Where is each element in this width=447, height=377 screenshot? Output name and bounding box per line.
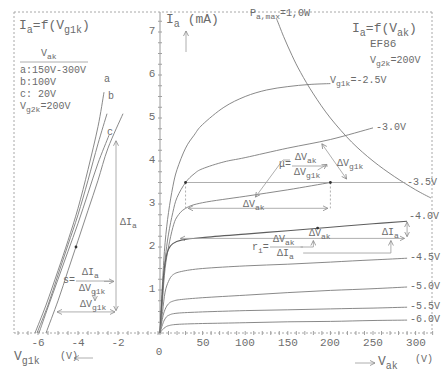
curve-6-0v: [160, 320, 407, 333]
ri-delta-ia-label: ΔIa: [382, 228, 399, 238]
y-tick-1: 1: [149, 284, 156, 295]
x-tick-150: 150: [278, 338, 298, 349]
main-vg2k: Vg2k=200V: [370, 56, 420, 66]
slope-formula-denominator: ΔVg1k: [79, 284, 105, 294]
tube-type: EF86: [370, 39, 396, 50]
left-dot-marker: [75, 246, 78, 249]
x-tick-minus6: -6: [31, 338, 44, 349]
x-tick-200: 200: [320, 338, 340, 349]
power-limit-label: Pa,max=1,0W: [250, 9, 310, 19]
x-tick-minus2: -2: [111, 338, 124, 349]
curve-label-minus5-5: -5.5V: [410, 302, 440, 312]
legend-item-b: b:100V: [20, 78, 56, 88]
x-tick-300: 300: [406, 338, 426, 349]
curve-a-300v: [35, 92, 104, 333]
main-x-axis-unit: (V): [415, 355, 433, 365]
curve-label-minus5-0: -5.0V: [410, 282, 440, 292]
curve-label-c: c: [107, 128, 113, 138]
ri-formula-numerator: ΔVak: [273, 235, 295, 245]
left-chart-title: Ia=f(Vg1k): [19, 19, 90, 32]
y-tick-4: 4: [149, 155, 156, 166]
ri-formula-lhs: ri=: [252, 243, 269, 253]
y-tick-5: 5: [149, 112, 156, 123]
main-dot-marker: [184, 181, 187, 184]
curve-label-minus3-0: -3.0V: [376, 123, 406, 133]
legend-header: Vak: [41, 49, 57, 59]
slope-formula-lhs: s=: [63, 276, 75, 286]
origin-label: 0: [156, 347, 163, 358]
y-tick-2: 2: [149, 241, 156, 252]
main-dot-marker: [329, 181, 332, 184]
x-tick-250: 250: [363, 338, 383, 349]
delta-vg1k-label: ΔVg1k: [80, 300, 106, 310]
x-tick-100: 100: [235, 338, 255, 349]
curve-5-5v: [160, 307, 407, 333]
x-tick-minus4: -4: [71, 338, 84, 349]
curve-label-minus4-0: -4.0V: [409, 212, 439, 222]
ri-delta-vak-label: ΔVak: [309, 229, 331, 239]
delta-ia-label: ΔIa: [120, 218, 137, 228]
mu-formula-numerator: ΔVak: [295, 153, 317, 163]
slope-formula-numerator: ΔIa: [82, 268, 99, 278]
x-tick-50: 50: [196, 338, 209, 349]
legend-vg2k: Vg2k=200V: [20, 102, 70, 112]
mu-delta-vak-label: ΔVak: [243, 200, 265, 210]
main-x-axis-label: Vak: [378, 355, 398, 368]
left-x-axis-unit: (V): [60, 352, 78, 362]
curve-label-b: b: [108, 92, 114, 102]
main-chart-title: Ia=f(Vak): [352, 22, 417, 35]
y-tick-3: 3: [149, 198, 156, 209]
curve-label-minus4-5: -4.5V: [410, 253, 440, 263]
mu-formula-denominator: ΔVg1k: [294, 168, 320, 178]
curve-label-minus2-5: Vg1k=-2.5V: [330, 76, 386, 86]
y-tick-7: 7: [149, 26, 156, 37]
curve-label-minus3-5: -3.5V: [407, 178, 437, 188]
tube-characteristics-figure: Ia=f(Vg1k) Vak a:150V-300V b:100V c: 20V…: [0, 0, 447, 377]
left-x-axis-label: Vg1k: [14, 350, 40, 363]
y-tick-6: 6: [149, 69, 156, 80]
y-axis-label: Ia (mA): [166, 13, 219, 26]
mu-delta-vg1k-label: ΔVg1k: [337, 159, 363, 169]
legend-item-c: c: 20V: [20, 90, 56, 100]
ri-formula-denominator: ΔIa: [277, 249, 294, 259]
main-polyarrow-callout: [301, 241, 314, 247]
legend-item-a: a:150V-300V: [20, 66, 86, 76]
main-polyarrow-callout: [303, 241, 391, 253]
mu-formula-lhs: μ=: [279, 160, 291, 170]
curve-label-minus6-0: -6.0V: [410, 315, 440, 325]
curve-label-a: a: [104, 75, 110, 85]
